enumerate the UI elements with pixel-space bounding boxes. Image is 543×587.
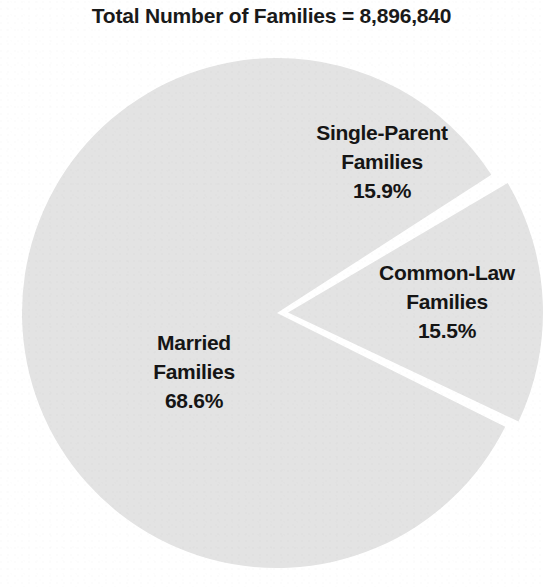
- slice-label-common-law-percent: 15.5%: [352, 316, 542, 345]
- slice-label-common-law-line2: Families: [352, 287, 542, 316]
- slice-label-single-parent-percent: 15.9%: [272, 176, 492, 205]
- slice-label-common-law-line1: Common-Law: [352, 258, 542, 287]
- slice-label-married-line2: Families: [86, 357, 302, 386]
- slice-label-single-parent: Single-Parent Families 15.9%: [272, 118, 492, 205]
- slice-label-married-percent: 68.6%: [86, 386, 302, 415]
- slice-label-single-parent-line2: Families: [272, 147, 492, 176]
- pie-chart-figure: Total Number of Families = 8,896,840 Sin…: [0, 0, 543, 587]
- slice-label-common-law: Common-Law Families 15.5%: [352, 258, 542, 345]
- slice-label-married-line1: Married: [86, 328, 302, 357]
- slice-label-married: Married Families 68.6%: [86, 328, 302, 415]
- slice-label-single-parent-line1: Single-Parent: [272, 118, 492, 147]
